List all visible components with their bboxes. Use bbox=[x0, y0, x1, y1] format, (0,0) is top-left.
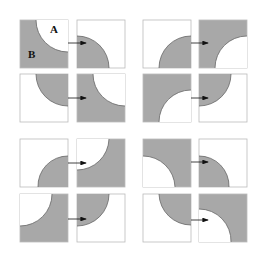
label-a: A bbox=[50, 23, 58, 35]
label-b: B bbox=[28, 48, 36, 60]
group-top-right bbox=[143, 20, 247, 122]
group-bottom-right bbox=[143, 139, 247, 242]
group-top-left: A B bbox=[20, 20, 125, 122]
tile-diagram: A B bbox=[0, 0, 259, 259]
group-bottom-left bbox=[20, 139, 125, 242]
